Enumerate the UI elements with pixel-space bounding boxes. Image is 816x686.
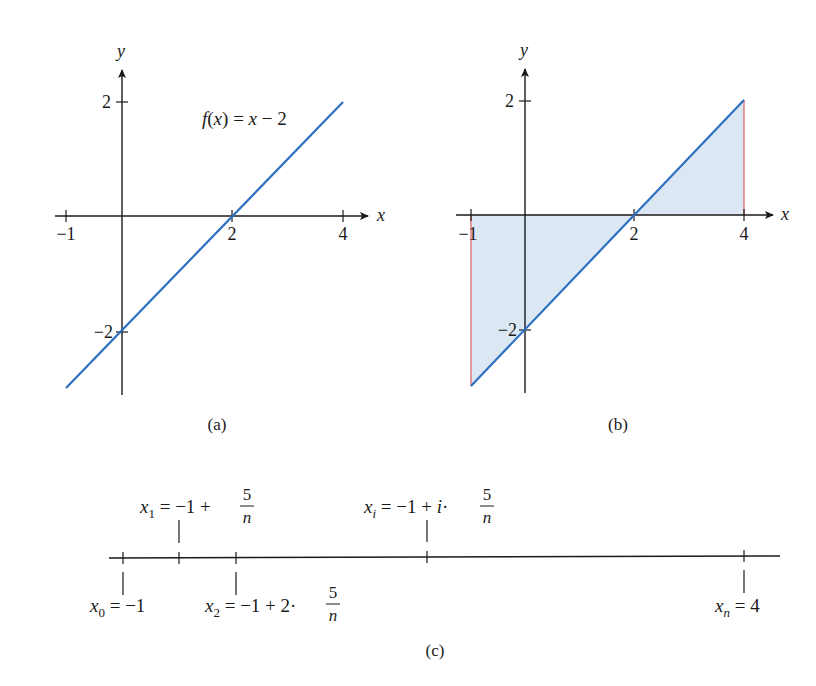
x-tick-label-neg1: −1 (56, 224, 75, 244)
y-tick-label-neg2: −2 (498, 320, 517, 340)
panel-caption-c: (c) (426, 641, 445, 660)
x-axis-label: x (376, 205, 385, 225)
svg-text:5: 5 (243, 485, 252, 504)
y-axis-label: y (518, 40, 528, 60)
function-line (66, 102, 343, 388)
figure-canvas: −1 2 4 2 −2 x y f(x) = x − 2 (a) (0, 0, 816, 686)
y-tick-label-neg2: −2 (94, 322, 113, 342)
panel-caption-a: (a) (208, 415, 227, 434)
label-x2: x2 = −1 + 2· 5 n (204, 583, 340, 625)
x-tick-label-4: 4 (740, 224, 749, 244)
panel-c: x0 = −1 x1 = −1 + 5 n x2 = −1 + 2· 5 n x… (89, 485, 780, 660)
svg-text:n: n (329, 606, 338, 625)
label-xi: xi = −1 + i· 5 n (363, 485, 494, 527)
y-axis-label: y (115, 41, 125, 61)
x-axis-label: x (780, 204, 789, 224)
panel-a: −1 2 4 2 −2 x y f(x) = x − 2 (a) (55, 41, 385, 434)
number-line (109, 556, 780, 558)
label-x0: x0 = −1 (89, 595, 145, 620)
x-tick-label-neg1: −1 (458, 224, 477, 244)
svg-text:xi = −1 + i·: xi = −1 + i· (363, 496, 448, 521)
svg-text:x1 = −1 +: x1 = −1 + (139, 496, 216, 521)
svg-text:n: n (483, 508, 492, 527)
x-tick-label-2: 2 (228, 224, 237, 244)
y-tick-label-2: 2 (505, 91, 514, 111)
x-tick-label-2: 2 (630, 224, 639, 244)
x-tick-label-4: 4 (339, 224, 348, 244)
label-xn: xn = 4 (714, 595, 760, 620)
svg-text:5: 5 (329, 583, 338, 602)
label-x1: x1 = −1 + 5 n (139, 485, 254, 527)
svg-text:n: n (243, 508, 252, 527)
svg-text:x2 = −1 + 2·: x2 = −1 + 2· (204, 595, 296, 620)
svg-text:xn = 4: xn = 4 (714, 595, 760, 620)
panel-caption-b: (b) (608, 415, 628, 434)
svg-text:5: 5 (483, 485, 492, 504)
panel-b: −1 2 4 2 −2 x y (b) (456, 40, 789, 434)
function-label: f(x) = x − 2 (202, 108, 287, 130)
svg-text:x0 = −1: x0 = −1 (89, 595, 145, 620)
y-tick-label-2: 2 (102, 92, 111, 112)
